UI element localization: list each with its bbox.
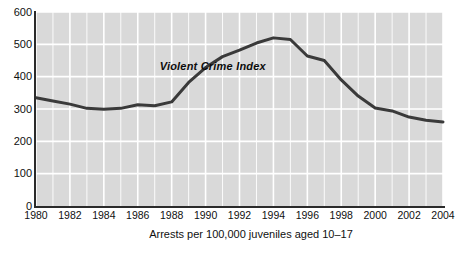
y-tick-label-500: 500 — [2, 39, 32, 50]
x-tick-label-2004: 2004 — [431, 209, 454, 221]
y-tick-label-200: 200 — [2, 136, 32, 147]
data-line-layer — [36, 12, 443, 206]
chart-caption-text: Arrests per 100,000 juveniles aged 10–17 — [113, 228, 353, 240]
x-tick-label-1988: 1988 — [160, 209, 183, 221]
y-tick-label-300: 300 — [2, 104, 32, 115]
series-violent-crime-index-line — [36, 38, 443, 122]
x-tick-label-1996: 1996 — [296, 209, 319, 221]
x-tick-label-1984: 1984 — [92, 209, 115, 221]
x-tick-label-1982: 1982 — [58, 209, 81, 221]
x-tick-label-1980: 1980 — [24, 209, 47, 221]
chart-caption: Arrests per 100,000 juveniles aged 10–17 — [0, 228, 466, 241]
y-axis-line — [34, 11, 36, 207]
x-axis-tick-labels: 1980198219841986198819901992199419961998… — [36, 209, 443, 223]
y-tick-label-400: 400 — [2, 71, 32, 82]
x-tick-label-2000: 2000 — [363, 209, 386, 221]
x-tick-label-1990: 1990 — [194, 209, 217, 221]
figure-container: 0100200300400500600 19801982198419861988… — [0, 0, 466, 266]
x-axis-line — [34, 206, 445, 208]
x-tick-label-1998: 1998 — [330, 209, 353, 221]
y-tick-label-600: 600 — [2, 7, 32, 18]
x-tick-label-1992: 1992 — [228, 209, 251, 221]
y-tick-label-100: 100 — [2, 168, 32, 179]
x-tick-label-1986: 1986 — [126, 209, 149, 221]
x-tick-label-1994: 1994 — [262, 209, 285, 221]
series-annotation-violent-crime-index: Violent Crime Index — [160, 60, 266, 72]
plot-area — [36, 12, 443, 206]
y-axis-tick-labels: 0100200300400500600 — [0, 12, 32, 206]
x-tick-label-2002: 2002 — [397, 209, 420, 221]
